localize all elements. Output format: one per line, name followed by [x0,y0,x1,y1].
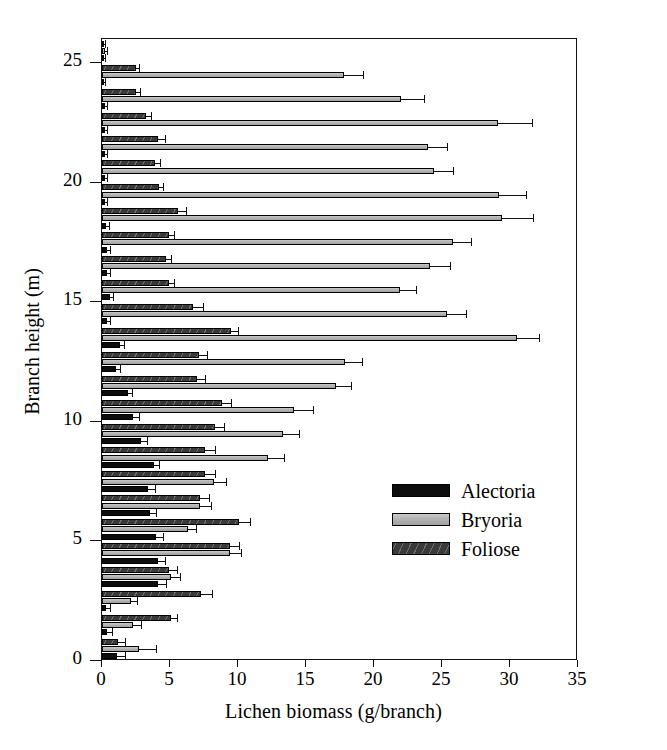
error-cap-alectoria-1m [125,652,126,660]
error-cap-foliose-13m [207,351,208,359]
bar-foliose-21m [102,160,155,166]
x-axis-title: Lichen biomass (g/branch) [0,700,667,723]
error-bar-alectoria-4m [158,584,166,585]
bar-foliose-9m [102,447,205,453]
bar-alectoria-12m [102,390,128,396]
y-tick-0 [90,660,101,661]
bar-alectoria-9m [102,462,154,468]
bar-foliose-23m [102,113,146,119]
bar-foliose-20m [102,184,159,190]
bar-alectoria-5m [102,558,158,564]
x-tick-5 [169,660,170,667]
error-bar-alectoria-7m [150,513,157,514]
bar-foliose-3m [102,591,201,597]
error-bar-bryoria-13m [345,362,361,363]
bar-alectoria-6m [102,534,156,540]
legend: Alectoria Bryoria Foliose [392,476,582,563]
error-cap-bryoria-22m [447,143,448,151]
error-bar-bryoria-2m [133,625,141,626]
y-tick-label-0: 0 [22,647,82,669]
bar-alectoria-11m [102,414,133,420]
error-bar-bryoria-1m [139,649,157,650]
error-cap-alectoria-18m [110,246,111,254]
error-bar-foliose-12m [197,379,205,380]
error-cap-foliose-10m [224,423,225,431]
bar-foliose-22m [102,136,158,142]
error-cap-foliose-12m [205,375,206,383]
error-cap-alectoria-6m [163,533,164,541]
x-tick-label-25: 25 [411,668,471,690]
error-bar-bryoria-23m [498,123,532,124]
bar-bryoria-9m [102,455,268,461]
bar-foliose-18m [102,232,169,238]
y-tick-label-25: 25 [22,49,82,71]
x-tick-0 [101,660,102,667]
legend-item-foliose: Foliose [392,534,582,563]
error-cap-alectoria-25m [105,78,106,86]
error-cap-bryoria-20m [526,191,527,199]
error-cap-alectoria-9m [159,461,160,469]
bar-foliose-25m [102,65,136,71]
error-cap-bryoria-12m [351,382,352,390]
bar-foliose-15m [102,304,193,310]
error-cap-alectoria-26m [105,54,106,62]
legend-label-alectoria: Alectoria [461,481,535,501]
bar-alectoria-8m [102,486,148,492]
bar-alectoria-16m [102,294,110,300]
bar-bryoria-8m [102,479,214,485]
error-cap-alectoria-19m [109,222,110,230]
error-bar-bryoria-19m [502,218,533,219]
error-bar-alectoria-6m [156,537,163,538]
bar-bryoria-2m [102,622,133,628]
error-cap-bryoria-15m [466,310,467,318]
legend-item-alectoria: Alectoria [392,476,582,505]
error-bar-bryoria-24m [401,99,424,100]
error-bar-bryoria-12m [336,386,351,387]
error-cap-bryoria-21m [453,167,454,175]
error-cap-alectoria-7m [156,509,157,517]
error-bar-foliose-1m [118,642,125,643]
error-cap-bryoria-18m [471,238,472,246]
error-cap-foliose-1m [125,638,126,646]
error-bar-bryoria-7m [200,506,211,507]
bar-alectoria-13m [102,366,116,372]
error-cap-alectoria-8m [155,485,156,493]
error-bar-foliose-6m [239,522,250,523]
error-cap-bryoria-16m [416,286,417,294]
bar-foliose-4m [102,567,169,573]
bar-bryoria-24m [102,96,401,102]
legend-swatch-foliose [392,542,450,555]
error-bar-bryoria-9m [268,458,284,459]
error-cap-alectoria-2m [112,628,113,636]
bar-bryoria-11m [102,407,294,413]
error-cap-bryoria-2m [141,621,142,629]
error-cap-alectoria-11m [139,413,140,421]
legend-label-bryoria: Bryoria [461,510,522,530]
error-cap-alectoria-20m [107,198,108,206]
bar-foliose-8m [102,471,205,477]
error-cap-bryoria-17m [450,262,451,270]
legend-label-foliose: Foliose [461,539,520,559]
error-cap-foliose-4m [177,566,178,574]
bar-foliose-14m [102,328,231,334]
error-cap-bryoria-14m [539,334,540,342]
error-cap-alectoria-24m [107,102,108,110]
bar-foliose-2m [102,615,171,621]
bar-bryoria-15m [102,311,447,317]
bar-bryoria-5m [102,550,230,556]
error-cap-bryoria-3m [137,597,138,605]
error-cap-foliose-9m [215,446,216,454]
bar-bryoria-12m [102,383,336,389]
error-cap-bryoria-23m [532,119,533,127]
error-bar-bryoria-6m [188,529,196,530]
bar-bryoria-1m [102,646,139,652]
bar-alectoria-4m [102,581,158,587]
error-bar-bryoria-15m [447,314,466,315]
bar-foliose-11m [102,400,222,406]
x-tick-10 [237,660,238,667]
error-cap-foliose-16m [174,279,175,287]
x-tick-label-0: 0 [71,668,131,690]
legend-item-bryoria: Bryoria [392,505,582,534]
bar-series-container [102,39,576,659]
bar-alectoria-7m [102,510,150,516]
